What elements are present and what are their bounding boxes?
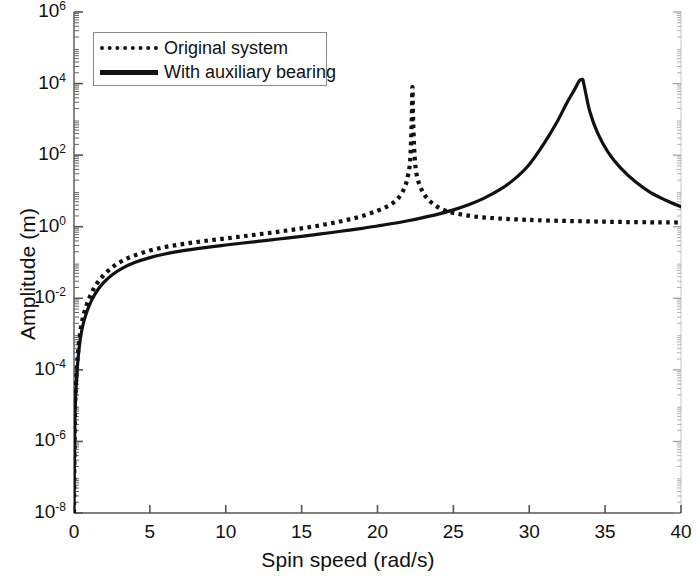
legend-entry-with-auxiliary-bearing: With auxiliary bearing: [100, 59, 336, 84]
plot-canvas: [0, 0, 696, 582]
legend-label-with-auxiliary-bearing: With auxiliary bearing: [164, 63, 336, 81]
x-axis-title: Spin speed (rad/s): [0, 548, 696, 572]
y-tick-label: 10-6: [2, 428, 66, 451]
x-tick-label: 15: [272, 521, 332, 543]
x-tick-label: 0: [44, 521, 104, 543]
y-tick-label: 100: [2, 214, 66, 237]
y-tick-label: 10-2: [2, 285, 66, 308]
x-tick-label: 35: [575, 521, 635, 543]
legend-entry-original-system: Original system: [100, 35, 288, 60]
series-curve: [74, 87, 681, 513]
y-axis-title: Amplitude (m): [16, 184, 40, 364]
x-tick-label: 40: [651, 521, 696, 543]
legend-label-original-system: Original system: [164, 39, 288, 57]
series-curve: [74, 79, 681, 513]
x-tick-label: 25: [423, 521, 483, 543]
axis-ticks: [74, 12, 681, 513]
y-tick-label: 106: [2, 0, 66, 22]
y-tick-label: 10-8: [2, 500, 66, 523]
x-tick-label: 30: [499, 521, 559, 543]
y-tick-label: 10-4: [2, 357, 66, 380]
solid-line-sample-icon: [100, 65, 158, 79]
data-curves: [74, 79, 681, 513]
dotted-line-sample-icon: [100, 41, 158, 55]
axis-frame: [74, 12, 681, 513]
x-tick-label: 10: [196, 521, 256, 543]
y-tick-label: 102: [2, 142, 66, 165]
chart-figure: Original system With auxiliary bearing A…: [0, 0, 696, 582]
x-tick-label: 5: [120, 521, 180, 543]
x-tick-label: 20: [348, 521, 408, 543]
chart-legend: Original system With auxiliary bearing: [93, 32, 327, 86]
y-tick-label: 104: [2, 71, 66, 94]
